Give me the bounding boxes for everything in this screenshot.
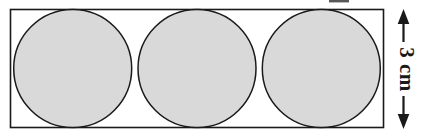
cropped-glyph-artifact xyxy=(329,0,349,2)
geometry-figure: 3 cm xyxy=(0,0,422,137)
figure-canvas xyxy=(0,0,422,137)
circle-3 xyxy=(262,10,380,128)
circle-2 xyxy=(138,10,256,128)
arrow-up-icon xyxy=(398,9,410,24)
circle-1 xyxy=(14,10,132,128)
arrow-down-icon xyxy=(398,114,410,129)
